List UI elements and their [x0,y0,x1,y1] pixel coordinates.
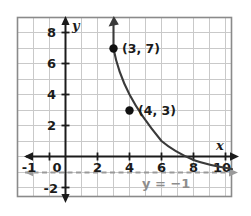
x-tick-label-2: 2 [93,160,102,175]
x-tick-label-0: 0 [52,160,61,175]
graph-figure: 8 6 4 2 -2 -1 0 2 4 6 8 10 y x (3, 7) (4… [0,0,251,216]
data-point-3-7 [109,44,117,52]
y-axis-name: y [71,18,81,33]
data-point-label-4-3: (4, 3) [138,103,176,118]
asymptote-label: y = −1 [142,176,190,191]
y-tick-label-neg2: -2 [44,181,58,196]
x-tick-label-4: 4 [125,160,134,175]
y-tick-label-8: 8 [47,25,56,40]
data-point-label-3-7: (3, 7) [122,41,160,56]
x-axis-name: x [215,138,224,153]
y-tick-label-6: 6 [47,56,56,71]
coordinate-plane-graph: 8 6 4 2 -2 -1 0 2 4 6 8 10 y x (3, 7) (4… [0,0,251,216]
data-point-4-3 [125,106,133,114]
x-tick-label-neg1: -1 [22,160,36,175]
y-tick-label-2: 2 [47,118,56,133]
x-tick-label-8: 8 [189,160,198,175]
y-tick-label-4: 4 [47,87,56,102]
x-tick-label-6: 6 [157,160,166,175]
